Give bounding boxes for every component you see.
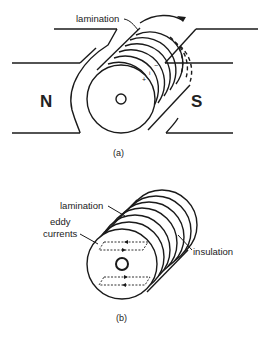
south-pole-piece (165, 29, 258, 133)
current-symbol: i (149, 70, 150, 76)
diagram-canvas: lamination N S + − i (a) (0, 0, 266, 340)
caption-a: (a) (113, 148, 124, 158)
caption-b: (b) (116, 313, 127, 323)
label-lamination-a: lamination (76, 13, 119, 24)
plus-sign: + (142, 76, 146, 83)
label-lamination-b: lamination (60, 200, 103, 211)
rotor-laminations (87, 28, 192, 133)
lamination-stack (87, 190, 197, 299)
label-eddy-line2: currents (43, 228, 78, 239)
figure-a (12, 15, 258, 133)
arrowhead-icon (177, 16, 186, 22)
label-north-pole: N (40, 92, 52, 111)
minus-sign: − (154, 62, 158, 69)
label-eddy-line1: eddy (50, 216, 71, 227)
rotation-arrow (140, 15, 182, 23)
label-insulation: insulation (193, 246, 233, 257)
label-south-pole: S (191, 92, 202, 111)
